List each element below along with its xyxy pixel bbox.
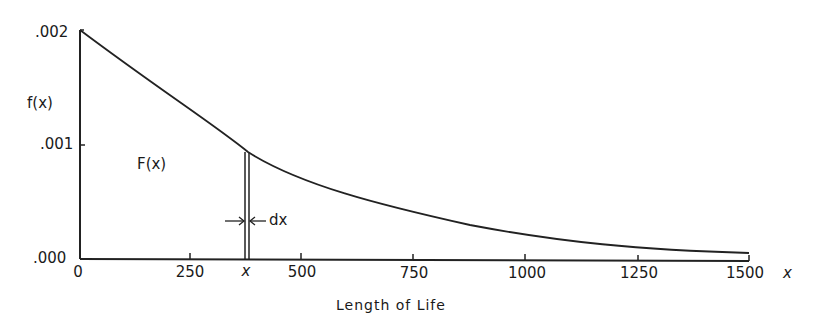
x-tick-500: 500 [288,265,317,280]
chart-canvas [0,0,819,333]
x-tick-1500: 1500 [726,266,764,281]
x-axis-label: Length of Life [336,298,446,312]
x-tick-750: 750 [400,266,429,281]
y-tick-000: .000 [33,251,66,266]
y-tick-002: .002 [35,25,68,40]
x-tick-0: 0 [73,265,83,280]
y-tick-001: .001 [40,137,73,152]
dx-label: dx [269,213,287,228]
x-axis [80,259,749,261]
x-tick-250: 250 [176,265,205,280]
x-tick-1000: 1000 [508,266,546,281]
x-axis-end-label: x [783,266,792,281]
x-tick-1250: 1250 [620,266,658,281]
area-label: F(x) [137,157,166,172]
density-curve [80,30,749,253]
y-axis-label: f(x) [27,96,53,111]
x-marker-label: x [242,264,251,279]
